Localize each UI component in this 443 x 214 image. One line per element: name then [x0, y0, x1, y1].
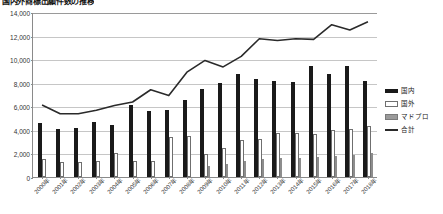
x-axis-tick-label: 2007年 — [160, 177, 179, 196]
bar-madrid — [226, 164, 228, 177]
y-axis-tick-label: 10,000 — [10, 57, 30, 64]
x-axis-label-cell: 2006年 — [141, 180, 159, 214]
y-axis-tick-label: 6,000 — [14, 104, 30, 111]
legend-item[interactable]: 国外 — [385, 97, 443, 110]
bar-column — [323, 13, 341, 177]
legend-item-label: 合計 — [401, 126, 415, 134]
bar-group — [51, 13, 69, 177]
y-axis-tick-label: 12,000 — [10, 33, 30, 40]
bar-columns — [33, 13, 377, 177]
x-axis-tick — [151, 177, 152, 179]
x-axis-label-cell: 2017年 — [341, 180, 359, 214]
x-axis-tick — [60, 177, 61, 179]
plot-area: 02,0004,0006,0008,00010,00012,00014,000 — [32, 13, 377, 178]
x-axis-tick — [78, 177, 79, 179]
bar-group — [232, 13, 250, 177]
bar-madrid — [353, 155, 355, 177]
bar-group — [341, 13, 359, 177]
x-axis-tick — [114, 177, 115, 179]
x-axis-tick-label: 2009年 — [197, 177, 216, 196]
bar-column — [287, 13, 305, 177]
x-axis-tick — [205, 177, 206, 179]
bar-column — [178, 13, 196, 177]
x-axis-label-cell: 2002年 — [68, 180, 86, 214]
x-axis-tick-label: 2000年 — [33, 177, 52, 196]
y-axis-tick-label: 4,000 — [14, 127, 30, 134]
x-axis-tick — [332, 177, 333, 179]
line-swatch-icon — [385, 129, 398, 131]
bar-group — [87, 13, 105, 177]
x-axis-tick — [314, 177, 315, 179]
legend-item[interactable]: 国内 — [385, 84, 443, 97]
bar-overseas — [96, 161, 100, 178]
x-axis-label-cell: 2010年 — [214, 180, 232, 214]
bar-madrid — [262, 159, 264, 177]
chart-title: 国内外商標出願件数の推移 — [2, 0, 94, 6]
bar-column — [341, 13, 359, 177]
legend-item[interactable]: マドプロ — [385, 110, 443, 123]
x-axis-tick-label: 2006年 — [142, 177, 161, 196]
bar-overseas — [187, 136, 191, 177]
bar-column — [359, 13, 377, 177]
x-axis-tick — [277, 177, 278, 179]
bar-column — [196, 13, 214, 177]
bar-gray-swatch-icon — [385, 114, 398, 120]
x-axis-tick — [350, 177, 351, 179]
chart-container: 国内外商標出願件数の推移 02,0004,0006,0008,00010,000… — [0, 0, 443, 214]
y-axis-tick-label: 14,000 — [10, 10, 30, 17]
bar-column — [51, 13, 69, 177]
bar-column — [268, 13, 286, 177]
x-axis-tick — [368, 177, 369, 179]
x-axis-tick — [187, 177, 188, 179]
x-axis-label-cell: 2015年 — [304, 180, 322, 214]
y-axis-tick-label: 2,000 — [14, 151, 30, 158]
x-axis-label-cell: 2012年 — [250, 180, 268, 214]
y-axis-tick — [31, 178, 33, 179]
x-axis-label-cell: 2000年 — [32, 180, 50, 214]
legend-item-label: マドプロ — [401, 113, 429, 121]
chart-legend: 国内国外マドプロ合計 — [385, 84, 443, 136]
bar-column — [160, 13, 178, 177]
x-axis-tick — [241, 177, 242, 179]
bar-column — [69, 13, 87, 177]
x-axis-tick-label: 2016年 — [324, 177, 343, 196]
bar-group — [196, 13, 214, 177]
x-axis-label-cell: 2004年 — [105, 180, 123, 214]
y-axis-tick-label: 0 — [26, 175, 30, 182]
x-axis-label-cell: 2005年 — [123, 180, 141, 214]
x-axis-tick — [296, 177, 297, 179]
bar-group — [305, 13, 323, 177]
bar-overseas — [133, 161, 137, 177]
bar-column — [142, 13, 160, 177]
x-axis-tick-label: 2017年 — [342, 177, 361, 196]
bar-column — [214, 13, 232, 177]
bar-black-swatch-icon — [385, 89, 398, 93]
bar-group — [124, 13, 142, 177]
bar-column — [33, 13, 51, 177]
bar-group — [142, 13, 160, 177]
legend-item-label: 国内 — [401, 87, 415, 95]
legend-item[interactable]: 合計 — [385, 123, 443, 136]
x-axis-tick-label: 2002年 — [70, 177, 89, 196]
x-axis-tick-label: 2015年 — [306, 177, 325, 196]
bar-overseas — [114, 153, 118, 177]
x-axis-tick — [133, 177, 134, 179]
bar-white-swatch-icon — [385, 101, 398, 107]
x-axis-label-cell: 2009年 — [195, 180, 213, 214]
x-axis-tick — [169, 177, 170, 179]
bar-column — [250, 13, 268, 177]
bar-group — [178, 13, 196, 177]
x-axis-tick-label: 2010年 — [215, 177, 234, 196]
x-axis-label-cell: 2007年 — [159, 180, 177, 214]
x-axis-label-cell: 2013年 — [268, 180, 286, 214]
x-axis-label-cell: 2001年 — [50, 180, 68, 214]
x-axis-tick-label: 2003年 — [88, 177, 107, 196]
x-axis-tick-label: 2011年 — [233, 177, 251, 195]
bar-overseas — [151, 161, 155, 178]
x-axis-tick-label: 2013年 — [269, 177, 288, 196]
x-axis-tick-label: 2014年 — [287, 177, 306, 196]
bar-group — [105, 13, 123, 177]
x-axis-tick — [96, 177, 97, 179]
x-axis-label-cell: 2008年 — [177, 180, 195, 214]
bar-madrid — [280, 158, 282, 177]
